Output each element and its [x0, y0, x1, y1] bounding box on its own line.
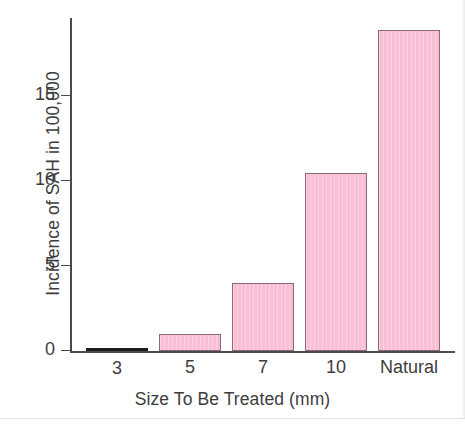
x-axis-line	[70, 351, 455, 353]
bar-5[interactable]: 5	[159, 334, 221, 351]
y-tick-label-10: 10	[35, 169, 55, 190]
x-tick-label-5: 5	[185, 357, 195, 378]
y-tick-10: 10	[61, 180, 70, 181]
bar-chart-figure: Incidence of SAH in 100,000 15 10 5 0 3 …	[0, 0, 465, 428]
page-bottom-margin	[0, 418, 465, 428]
y-tick-0: 0	[61, 350, 70, 351]
y-tick-label-5: 5	[45, 254, 55, 275]
y-tick-label-0: 0	[45, 339, 55, 360]
bar-10[interactable]: 10	[305, 173, 367, 351]
x-tick-label-7: 7	[258, 357, 268, 378]
x-tick-label-10: 10	[326, 357, 346, 378]
x-tick-label-3: 3	[112, 358, 122, 379]
y-axis-line	[70, 18, 72, 352]
x-tick-label-natural: Natural	[380, 357, 438, 378]
y-tick-label-15: 15	[35, 84, 55, 105]
bar-3[interactable]: 3	[86, 348, 148, 351]
y-tick-5: 5	[61, 265, 70, 266]
bar-natural[interactable]: Natural	[378, 30, 440, 351]
y-tick-15: 15	[61, 95, 70, 96]
x-axis-title: Size To Be Treated (mm)	[0, 389, 465, 410]
plot-area: 15 10 5 0 3 5 7 10 Natural	[70, 18, 455, 351]
bar-7[interactable]: 7	[232, 283, 294, 351]
